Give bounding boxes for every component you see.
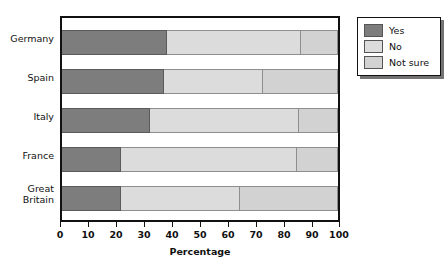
category-label-spain: Spain <box>0 72 54 83</box>
bar-row <box>62 69 338 94</box>
category-label-line: Great <box>0 183 54 194</box>
category-label-france: France <box>0 150 54 161</box>
x-tick-label: 80 <box>270 229 298 240</box>
legend-label: Yes <box>389 25 404 36</box>
x-tick <box>284 222 285 227</box>
x-tick-label: 60 <box>214 229 242 240</box>
legend-swatch-not-sure <box>364 56 383 69</box>
x-tick <box>256 222 257 227</box>
bar-segment-no <box>121 186 240 211</box>
category-label-germany: Germany <box>0 33 54 44</box>
x-tick-label: 30 <box>130 229 158 240</box>
bar-segment-yes <box>62 108 150 133</box>
legend: Yes No Not sure <box>357 17 441 76</box>
x-tick <box>88 222 89 227</box>
bar-segment-no <box>150 108 299 133</box>
category-label-line: France <box>0 150 54 161</box>
x-tick-label: 100 <box>325 229 353 240</box>
x-tick-label: 90 <box>298 229 326 240</box>
x-tick-label: 50 <box>186 229 214 240</box>
legend-label: Not sure <box>389 57 429 68</box>
category-label-line: Italy <box>0 111 54 122</box>
bar-row <box>62 147 338 172</box>
bar-segment-no <box>121 147 296 172</box>
x-tick-label: 10 <box>74 229 102 240</box>
bar-segment-yes <box>62 186 121 211</box>
category-label-great-britain: Great Britain <box>0 183 54 205</box>
x-tick <box>144 222 145 227</box>
x-tick-label: 70 <box>242 229 270 240</box>
x-tick <box>116 222 117 227</box>
x-tick-label: 40 <box>158 229 186 240</box>
legend-item-not-sure[interactable]: Not sure <box>364 55 435 70</box>
bar-segment-not-sure <box>240 186 338 211</box>
bar-segment-no <box>167 30 301 55</box>
legend-item-no[interactable]: No <box>364 39 435 54</box>
bar-row <box>62 108 338 133</box>
bar-segment-no <box>164 69 263 94</box>
x-tick <box>339 222 340 227</box>
category-label-line: Spain <box>0 72 54 83</box>
x-tick <box>312 222 313 227</box>
legend-swatch-yes <box>364 24 383 37</box>
bar-segment-not-sure <box>297 147 338 172</box>
x-tick <box>172 222 173 227</box>
x-tick-label: 20 <box>102 229 130 240</box>
legend-item-yes[interactable]: Yes <box>364 23 435 38</box>
x-axis-title: Percentage <box>60 246 340 257</box>
category-label-italy: Italy <box>0 111 54 122</box>
legend-label: No <box>389 41 402 52</box>
bar-segment-yes <box>62 147 121 172</box>
x-tick <box>200 222 201 227</box>
stacked-bar-chart: Germany Spain Italy France Great Britain <box>0 0 448 265</box>
plot-area <box>60 16 340 222</box>
bar-segment-not-sure <box>301 30 338 55</box>
x-tick <box>60 222 61 227</box>
category-label-line: Germany <box>0 33 54 44</box>
legend-swatch-no <box>364 40 383 53</box>
x-tick <box>228 222 229 227</box>
x-tick-label: 0 <box>46 229 74 240</box>
bar-row <box>62 30 338 55</box>
bar-segment-yes <box>62 30 167 55</box>
bar-segment-yes <box>62 69 164 94</box>
category-label-line: Britain <box>0 194 54 205</box>
bar-row <box>62 186 338 211</box>
bar-segment-not-sure <box>263 69 338 94</box>
bar-segment-not-sure <box>299 108 338 133</box>
